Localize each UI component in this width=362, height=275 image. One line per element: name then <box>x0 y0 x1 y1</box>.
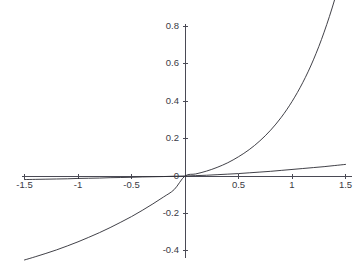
y-tick-label: 0.4 <box>166 95 179 106</box>
plot-canvas: -1.5-1-0.50.511.5 0.80.60.40.20-0.2-0.4 <box>0 0 362 275</box>
x-tick-label: 1 <box>289 179 294 190</box>
y-tick-label: 0.6 <box>166 57 179 68</box>
y-tick-label: 0.8 <box>166 20 179 31</box>
x-tick-label: 0.5 <box>232 179 245 190</box>
axes-group <box>22 24 352 258</box>
x-axis-tick-labels: -1.5-1-0.50.511.5 <box>16 179 352 190</box>
y-axis-tick-labels: 0.80.60.40.20-0.2-0.4 <box>163 20 179 255</box>
x-tick-label: -0.5 <box>123 179 139 190</box>
y-tick-label: -0.2 <box>163 207 179 218</box>
y-tick-label: 0.2 <box>166 132 179 143</box>
x-tick-label: -1 <box>74 179 82 190</box>
origin-label: 0 <box>174 170 179 181</box>
x-tick-label: 1.5 <box>339 179 352 190</box>
y-tick-label: -0.4 <box>163 244 179 255</box>
chart-figure: -1.5-1-0.50.511.5 0.80.60.40.20-0.2-0.4 <box>0 0 362 275</box>
x-tick-label: -1.5 <box>16 179 32 190</box>
